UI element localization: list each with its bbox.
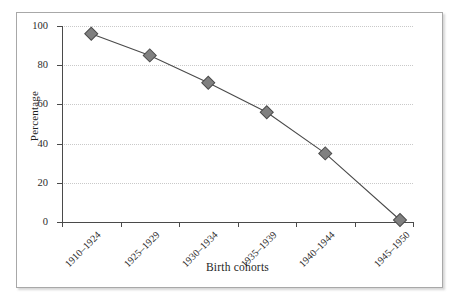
data-point-0[interactable] <box>85 27 98 40</box>
series-markers <box>85 27 407 226</box>
series-line <box>91 34 400 220</box>
data-point-2[interactable] <box>202 76 215 89</box>
data-point-3[interactable] <box>260 106 273 119</box>
chart-page: 100 80 60 40 20 0 1910–1924 1925–1929 19… <box>0 0 459 305</box>
x-axis-title: Birth cohorts <box>62 261 413 273</box>
y-axis-title: Percentage <box>28 56 40 176</box>
data-point-1[interactable] <box>143 49 156 62</box>
